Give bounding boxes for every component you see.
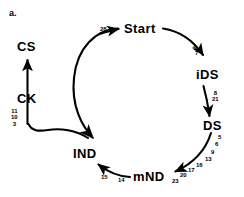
edge-label-ds-to-mnd-4: 13: [205, 156, 212, 162]
node-mnd[interactable]: mND: [133, 170, 165, 183]
edge-label-ds-to-mnd-1: 5: [218, 134, 221, 140]
edge-label-ds-to-mnd-5: 16: [196, 162, 203, 168]
edge-ind-to-ck: [29, 124, 89, 138]
edge-ind-to-start: [73, 29, 117, 138]
edge-label-mnd-to-ind-1: 15: [101, 174, 108, 180]
edge-ds-to-mnd: [176, 133, 212, 172]
node-start[interactable]: Start: [124, 22, 156, 35]
edge-label-start-to-ids: 4 7: [190, 44, 198, 57]
node-ck[interactable]: CK: [17, 92, 37, 105]
edge-label-ind-to-start: 28: [100, 26, 107, 32]
edge-label-ind-to-ck-2: 10: [11, 114, 18, 120]
figure-panel: a. Start iDS DS mND IND CK CS: [0, 0, 244, 197]
edge-label-ds-to-mnd-6: 17: [188, 167, 195, 173]
edge-label-start-to-ids-2: 7: [195, 50, 198, 56]
edge-label-ds-to-mnd-3: 9: [211, 149, 214, 155]
node-ids[interactable]: iDS: [196, 68, 219, 81]
node-cs[interactable]: CS: [17, 40, 36, 53]
edge-label-ids-to-ds: 8 21: [212, 90, 219, 103]
edge-label-ds-to-mnd-2: 6: [215, 141, 218, 147]
edge-label-ids-to-ds-2: 21: [212, 96, 219, 102]
edge-label-ds-to-mnd-8: 23: [172, 178, 179, 184]
edge-label-mnd-to-ind-2: 14: [118, 177, 125, 183]
node-ds[interactable]: DS: [203, 119, 222, 132]
edge-label-ds-to-mnd-7: 20: [180, 172, 187, 178]
edge-ids-to-ds: [204, 86, 210, 116]
node-ind[interactable]: IND: [73, 147, 97, 160]
edge-label-ind-to-ck-3: 3: [11, 121, 18, 127]
edge-label-ind-to-ck: 11 10 3: [11, 108, 18, 127]
